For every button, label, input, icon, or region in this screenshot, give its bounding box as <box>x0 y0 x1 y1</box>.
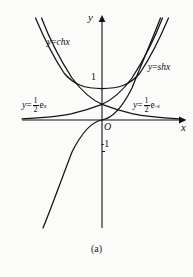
tick-label-one: 1 <box>91 72 96 82</box>
hyperbolic-functions-figure: y x 1 O -1 y=chx y=shx y=12ex y=12e-x (a… <box>0 0 193 277</box>
curve-label-cosh: y=chx <box>47 38 70 48</box>
half-exp-pos-fraction: 12 <box>33 97 39 115</box>
figure-caption: (a) <box>0 243 193 254</box>
half-exp-neg-denominator: 2 <box>144 105 150 114</box>
half-exp-pos-numerator: 1 <box>33 97 39 105</box>
sinh-label-rhs: shx <box>158 63 171 73</box>
half-exp-neg-fraction: 12 <box>144 97 150 115</box>
curves-group <box>22 18 179 228</box>
half-exp-pos-denominator: 2 <box>33 105 39 114</box>
x-axis-label: x <box>181 122 186 133</box>
curve-label-sinh: y=shx <box>148 63 170 73</box>
y-axis-arrowhead <box>99 15 106 22</box>
half-exp-neg-numerator: 1 <box>144 97 150 105</box>
cosh-label-rhs: chx <box>57 38 70 48</box>
plot-canvas <box>0 0 193 277</box>
curve-label-half-exp-negative: y=12e-x <box>133 97 160 115</box>
tick-label-negative-one: -1 <box>101 139 109 149</box>
half-exp-neg-eq: = <box>137 101 142 111</box>
curve-label-half-exp-positive: y=12ex <box>22 97 47 115</box>
half-exp-pos-eq: = <box>26 101 31 111</box>
origin-label: O <box>104 122 111 132</box>
y-axis-label: y <box>88 12 93 23</box>
